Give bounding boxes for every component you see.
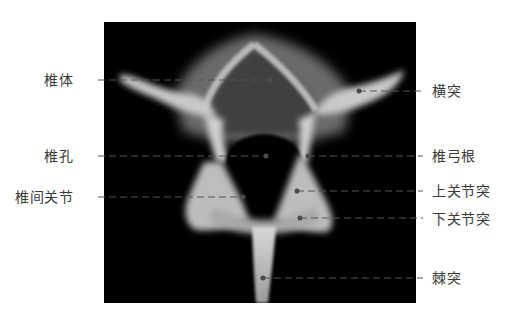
label-transverse-process: 横突	[432, 83, 461, 99]
xray-image	[104, 22, 416, 303]
vertebra-diagram: 椎体 椎孔 椎间关节 横突 椎弓根 上关节突 下关节突 棘突	[0, 0, 519, 317]
label-pedicle: 椎弓根	[432, 148, 476, 164]
label-superior-articular-process: 上关节突	[432, 183, 490, 199]
label-facet-joint: 椎间关节	[15, 189, 73, 205]
label-vertebral-body: 椎体	[44, 72, 73, 88]
vertebra-xray-illustration	[104, 22, 416, 303]
label-spinous-process: 棘突	[432, 270, 461, 286]
label-inferior-articular-process: 下关节突	[432, 211, 490, 227]
label-vertebral-foramen: 椎孔	[44, 148, 73, 164]
